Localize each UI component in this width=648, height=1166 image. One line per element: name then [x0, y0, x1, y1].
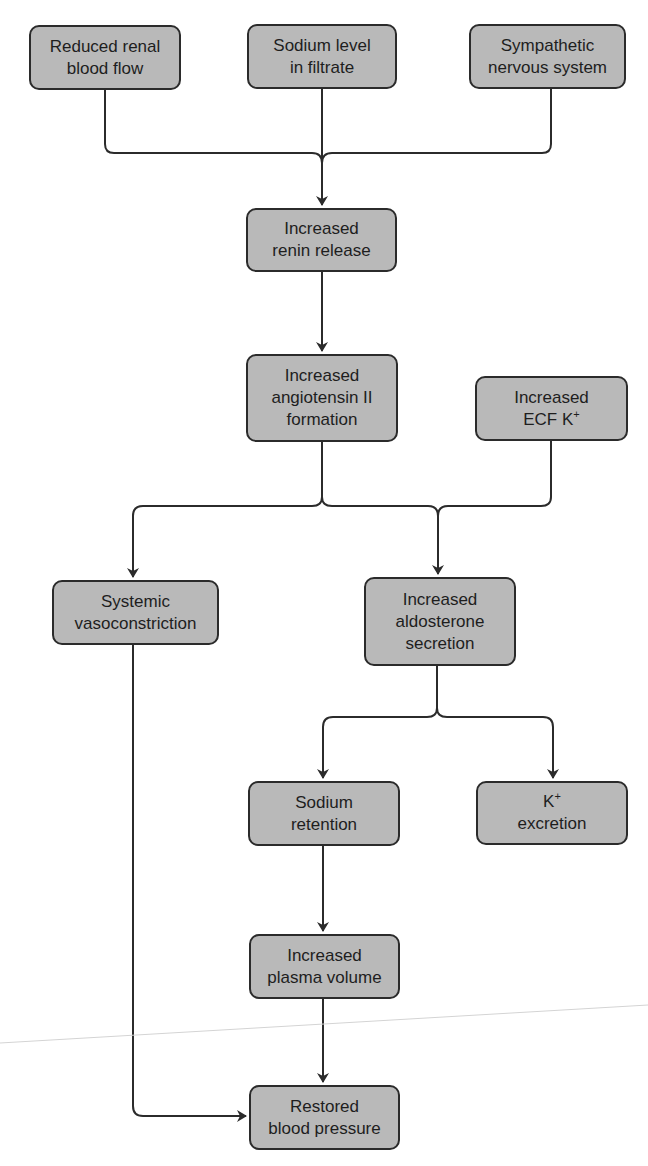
node-label: Increased: [287, 945, 362, 967]
node-label: blood flow: [67, 58, 144, 80]
edge-aldosterone-to-sodium-retention: [323, 666, 437, 778]
node-label: Sodium level: [273, 35, 370, 57]
node-increased-angiotensin-ii-formation: Increased angiotensin II formation: [246, 354, 398, 442]
node-label: formation: [287, 409, 358, 431]
superscript-plus: +: [573, 408, 579, 420]
flowchart-canvas: Reduced renal blood flow Sodium level in…: [0, 0, 648, 1166]
node-increased-plasma-volume: Increased plasma volume: [249, 934, 400, 999]
node-label: vasoconstriction: [75, 613, 197, 635]
node-label: Sodium: [295, 792, 353, 814]
node-restored-blood-pressure: Restored blood pressure: [249, 1085, 400, 1150]
node-label: excretion: [518, 813, 587, 835]
node-label: in filtrate: [290, 57, 354, 79]
node-systemic-vasoconstriction: Systemic vasoconstriction: [52, 580, 219, 645]
node-sodium-level-in-filtrate: Sodium level in filtrate: [247, 24, 397, 89]
node-increased-ecf-k: Increased ECF K+: [475, 376, 628, 441]
node-label: K: [543, 792, 554, 811]
edge-sympathetic-to-renin: [322, 89, 551, 163]
node-label: blood pressure: [268, 1118, 380, 1140]
node-label: renin release: [272, 240, 370, 262]
node-label: Restored: [290, 1096, 359, 1118]
node-label: angiotensin II: [271, 387, 372, 409]
node-sympathetic-nervous-system: Sympathetic nervous system: [469, 24, 626, 89]
node-label: secretion: [406, 633, 475, 655]
edge-ecf-k-to-aldosterone: [438, 441, 551, 516]
node-label: retention: [291, 814, 357, 836]
node-label: Increased: [514, 387, 589, 409]
edge-angiotensin-to-vasoconstriction: [133, 442, 322, 577]
edge-angiotensin-to-aldosterone: [322, 497, 438, 574]
edge-reduced-renal-to-renin: [105, 90, 322, 163]
superscript-plus: +: [554, 790, 560, 802]
node-label-wrap: ECF K+: [523, 409, 580, 431]
node-label: Reduced renal: [50, 36, 161, 58]
edge-vasoconstriction-to-restored-bp: [133, 645, 246, 1116]
node-increased-aldosterone-secretion: Increased aldosterone secretion: [364, 577, 516, 666]
node-label: Systemic: [101, 591, 170, 613]
node-label: Increased: [285, 365, 360, 387]
node-sodium-retention: Sodium retention: [248, 781, 400, 846]
node-label: ECF K: [523, 410, 573, 429]
node-increased-renin-release: Increased renin release: [246, 208, 397, 272]
node-k-excretion: K+ excretion: [476, 781, 628, 845]
node-label: Increased: [284, 218, 359, 240]
node-label: Sympathetic: [501, 35, 595, 57]
node-label-wrap: K+: [543, 791, 561, 813]
node-label: plasma volume: [267, 967, 381, 989]
node-reduced-renal-blood-flow: Reduced renal blood flow: [29, 25, 181, 90]
node-label: nervous system: [488, 57, 607, 79]
node-label: Increased: [403, 589, 478, 611]
node-label: aldosterone: [396, 611, 485, 633]
edge-aldosterone-to-k-excretion: [437, 708, 553, 778]
